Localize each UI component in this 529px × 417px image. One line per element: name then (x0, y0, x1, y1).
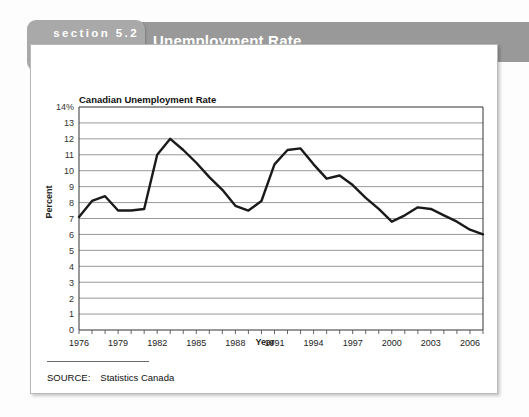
svg-text:1994: 1994 (304, 338, 324, 348)
source-value: Statistics Canada (100, 372, 174, 383)
exhibit-card: Canadian Unemployment Rate Percent Year … (30, 44, 498, 394)
svg-text:1979: 1979 (108, 338, 128, 348)
svg-text:7: 7 (69, 214, 74, 224)
svg-text:11: 11 (65, 150, 74, 160)
y-tick-labels-group: 14%131211109876543210 (56, 102, 74, 335)
svg-text:4: 4 (69, 262, 74, 272)
gridlines-group (79, 107, 483, 330)
svg-text:2: 2 (69, 294, 74, 304)
svg-text:1997: 1997 (343, 338, 363, 348)
svg-text:6: 6 (69, 230, 74, 240)
x-tick-labels-group: 1976197919821985198819911994199720002003… (69, 338, 480, 348)
svg-text:1976: 1976 (69, 338, 89, 348)
screenshot-root: Unemployment Rate section 5.2 Exhibit 2 … (0, 0, 529, 417)
svg-text:2006: 2006 (460, 338, 480, 348)
svg-text:3: 3 (69, 278, 74, 288)
svg-text:13: 13 (64, 118, 74, 128)
svg-text:5: 5 (69, 246, 74, 256)
svg-text:1: 1 (69, 309, 74, 319)
svg-text:12: 12 (64, 134, 74, 144)
svg-text:1982: 1982 (147, 338, 167, 348)
svg-text:1985: 1985 (186, 338, 206, 348)
svg-text:1991: 1991 (264, 338, 284, 348)
svg-text:8: 8 (69, 198, 74, 208)
source-divider (47, 361, 149, 362)
svg-text:1988: 1988 (225, 338, 245, 348)
svg-text:14%: 14% (56, 102, 74, 112)
source-label: SOURCE: (47, 372, 90, 383)
svg-text:10: 10 (64, 166, 74, 176)
source-note: SOURCE:Statistics Canada (47, 372, 174, 383)
svg-text:0: 0 (69, 325, 74, 335)
section-number-label: section 5.2 (27, 27, 139, 39)
x-tick-marks-group (79, 330, 483, 334)
chart-container: Canadian Unemployment Rate Percent Year … (31, 45, 499, 395)
svg-text:2000: 2000 (382, 338, 402, 348)
svg-text:9: 9 (69, 182, 74, 192)
svg-text:2003: 2003 (421, 338, 441, 348)
line-chart-svg: 14%131211109876543210 197619791982198519… (31, 45, 499, 395)
